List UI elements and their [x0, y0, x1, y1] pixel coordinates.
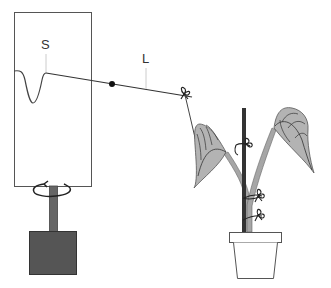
pivot-point [109, 81, 115, 87]
leaf-right [274, 108, 314, 173]
stylus-label: S [41, 37, 50, 52]
motor-base [30, 232, 77, 275]
recording-drum [15, 13, 92, 187]
drive-shaft [50, 186, 58, 232]
leaf-left [194, 124, 226, 188]
kymograph-diagram: S L [0, 0, 331, 288]
support-stake [242, 108, 246, 234]
flower-pot [230, 233, 282, 279]
pot-rim [230, 233, 282, 243]
pot-body [234, 243, 278, 279]
lever-label: L [142, 51, 149, 66]
plant-stem-left [224, 152, 250, 234]
plant [194, 108, 314, 234]
